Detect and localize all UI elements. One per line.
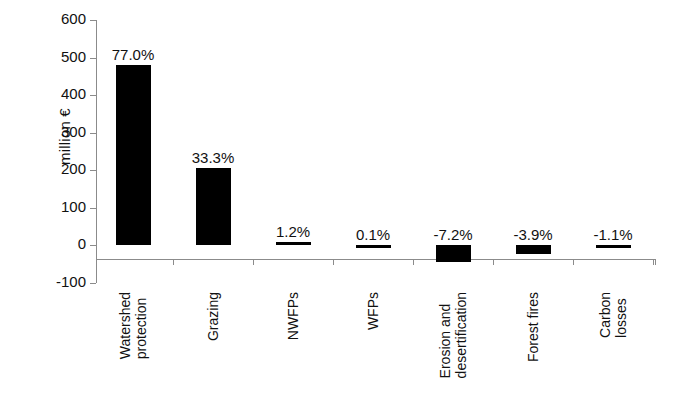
- y-tick-200: [90, 170, 96, 171]
- x-tick: [173, 259, 174, 265]
- category-label-line: losses: [613, 292, 629, 338]
- category-label-line: Erosion and: [437, 292, 453, 378]
- plot-area: 6005004003002001000-100 77.0%33.3%1.2%0.…: [96, 20, 656, 283]
- category-label: Forest fires: [525, 292, 541, 362]
- x-tick: [573, 259, 574, 265]
- category-label: Carbonlosses: [597, 292, 629, 338]
- bar[interactable]: [116, 65, 151, 245]
- category-label: Erosion anddesertification: [437, 292, 469, 378]
- bar-chart-figure: million € 6005004003002001000-100 77.0%3…: [0, 0, 681, 415]
- category-label: NWFPs: [285, 292, 301, 340]
- bar-value-label: 77.0%: [93, 46, 173, 63]
- y-tick-label: 100: [4, 198, 86, 215]
- x-tick: [253, 259, 254, 265]
- category-label-line: Carbon: [597, 292, 613, 338]
- category-label: WFPs: [365, 292, 381, 330]
- bar-value-label: -7.2%: [413, 226, 493, 243]
- y-tick-label: 400: [4, 85, 86, 102]
- bar-value-label: -3.9%: [493, 226, 573, 243]
- x-tick: [653, 259, 654, 265]
- bar[interactable]: [356, 245, 391, 248]
- bar-value-label: 0.1%: [333, 226, 413, 243]
- bar-value-label: 1.2%: [253, 223, 333, 240]
- category-label: Watershedprotection: [117, 292, 149, 359]
- category-label-line: protection: [133, 292, 149, 359]
- x-tick: [493, 259, 494, 265]
- y-tick-label: -100: [4, 273, 86, 290]
- y-tick-400: [90, 95, 96, 96]
- bar[interactable]: [276, 242, 311, 245]
- category-label-line: Forest fires: [525, 292, 541, 362]
- y-tick-600: [90, 20, 96, 21]
- x-tick-end: [655, 259, 656, 265]
- y-tick-300: [90, 133, 96, 134]
- x-tick: [413, 259, 414, 265]
- y-tick--100: [90, 283, 96, 284]
- category-label-line: WFPs: [365, 292, 381, 330]
- y-tick-100: [90, 208, 96, 209]
- y-tick-label: 200: [4, 160, 86, 177]
- y-tick-label: 0: [4, 235, 86, 252]
- x-axis-line: [96, 259, 656, 260]
- y-tick-label: 300: [4, 123, 86, 140]
- category-label: Grazing: [205, 292, 221, 341]
- y-tick-label: 500: [4, 48, 86, 65]
- bar[interactable]: [596, 245, 631, 248]
- category-label-line: NWFPs: [285, 292, 301, 340]
- category-label-line: desertification: [453, 292, 469, 378]
- category-label-line: Watershed: [117, 292, 133, 359]
- bar[interactable]: [436, 245, 471, 261]
- bar[interactable]: [196, 168, 231, 245]
- category-label-line: Grazing: [205, 292, 221, 341]
- y-tick-0: [90, 245, 96, 246]
- x-tick: [333, 259, 334, 265]
- bar[interactable]: [516, 245, 551, 254]
- bar-value-label: -1.1%: [573, 226, 653, 243]
- y-tick-label: 600: [4, 10, 86, 27]
- bar-value-label: 33.3%: [173, 149, 253, 166]
